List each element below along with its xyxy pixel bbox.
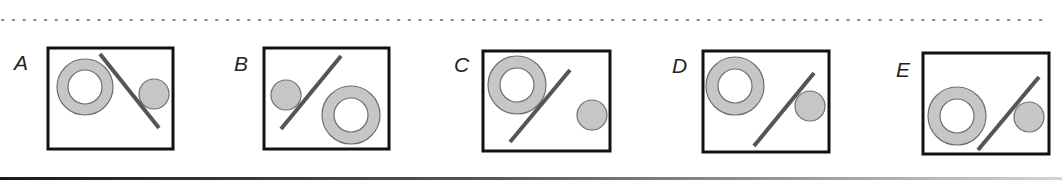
option-label: D: [672, 54, 687, 77]
small-circle-icon: [271, 80, 301, 110]
option-b[interactable]: B: [234, 48, 389, 149]
options-layer: ABCDE: [12, 48, 1049, 154]
small-circle-icon: [577, 100, 607, 130]
option-label: A: [12, 51, 28, 74]
option-label: B: [234, 52, 248, 75]
option-c[interactable]: C: [454, 51, 610, 151]
small-circle-icon: [1014, 102, 1044, 132]
figure-canvas: ABCDE: [0, 0, 1062, 181]
option-label: C: [454, 53, 470, 76]
option-e[interactable]: E: [896, 53, 1049, 154]
small-circle-icon: [139, 79, 169, 109]
small-circle-icon: [795, 91, 825, 121]
answer-options-strip: ABCDE: [0, 0, 1062, 181]
option-label: E: [896, 58, 911, 81]
option-a[interactable]: A: [12, 48, 173, 149]
bottom-separator: [0, 177, 1062, 180]
option-d[interactable]: D: [672, 51, 829, 152]
